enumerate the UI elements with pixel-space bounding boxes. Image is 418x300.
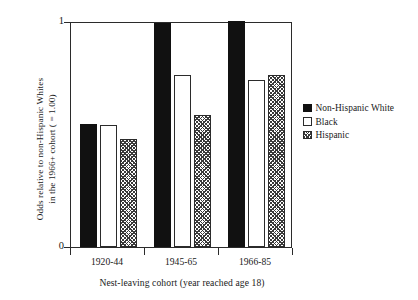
bar-1945-65-hispanic	[194, 115, 211, 247]
plot-area	[70, 22, 292, 248]
y-axis-title-line-2: in the 1966+ cohort ( = 1.00)	[47, 94, 59, 203]
legend-swatch-icon	[303, 104, 312, 113]
bar-1945-65-black	[174, 75, 191, 247]
chart-legend: Non-Hispanic WhiteBlackHispanic	[303, 103, 394, 140]
bar-1945-65-non-hispanic-white	[154, 23, 171, 247]
bar-1966-85-black	[248, 80, 265, 247]
legend-label: Black	[316, 117, 338, 127]
legend-label: Non-Hispanic White	[316, 103, 395, 113]
bar-1966-85-non-hispanic-white	[228, 21, 245, 247]
x-tick-mark-0	[70, 248, 71, 255]
x-tick-label-1920-44: 1920-44	[67, 256, 147, 267]
y-tick-label-1: 1	[48, 15, 64, 26]
legend-item-hispanic: Hispanic	[303, 130, 394, 140]
legend-swatch-icon	[303, 131, 312, 140]
x-axis-title: Nest-leaving cohort (year reached age 18…	[52, 277, 312, 288]
y-axis-title-line-1: Odds relative to non-Hispanic Whites	[35, 78, 47, 220]
bar-1920-44-black	[100, 125, 117, 247]
y-tick-label-0: 0	[48, 240, 64, 251]
y-axis-title: Odds relative to non-Hispanic Whites in …	[30, 34, 64, 264]
legend-label: Hispanic	[316, 130, 350, 140]
legend-item-black: Black	[303, 117, 394, 127]
x-tick-label-1945-65: 1945-65	[141, 256, 221, 267]
bar-chart-figure: Odds relative to non-Hispanic Whites in …	[0, 0, 418, 300]
x-tick-mark-3	[292, 248, 293, 255]
legend-item-non-hispanic-white: Non-Hispanic White	[303, 103, 394, 113]
x-tick-mark-2	[218, 248, 219, 255]
legend-swatch-icon	[303, 117, 312, 126]
bar-1920-44-non-hispanic-white	[80, 124, 97, 247]
bar-1966-85-hispanic	[268, 75, 285, 247]
x-tick-label-1966-85: 1966-85	[215, 256, 295, 267]
bar-1920-44-hispanic	[120, 139, 137, 247]
x-tick-mark-1	[144, 248, 145, 255]
